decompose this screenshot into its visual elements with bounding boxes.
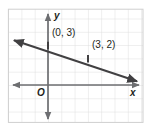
point-label-0-3: (0, 3) — [52, 28, 75, 38]
coordinate-plane-figure: (0, 3) (3, 2) y x O — [0, 0, 151, 132]
y-axis-label: y — [54, 11, 60, 21]
x-axis-label: x — [130, 88, 136, 98]
point-label-3-2: (3, 2) — [92, 40, 115, 50]
graph-canvas — [0, 0, 151, 132]
origin-label: O — [37, 88, 45, 98]
grid — [8, 9, 143, 122]
